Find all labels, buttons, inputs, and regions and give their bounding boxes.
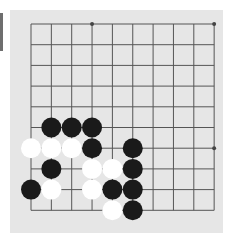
black-stone[interactable] bbox=[123, 159, 143, 179]
black-stone[interactable] bbox=[41, 118, 61, 138]
black-stone[interactable] bbox=[102, 180, 122, 200]
white-stone[interactable] bbox=[41, 180, 61, 200]
go-board[interactable] bbox=[10, 10, 223, 233]
black-stone[interactable] bbox=[82, 138, 102, 158]
white-stone[interactable] bbox=[82, 180, 102, 200]
black-stone[interactable] bbox=[62, 118, 82, 138]
black-stone[interactable] bbox=[123, 180, 143, 200]
white-stone[interactable] bbox=[102, 159, 122, 179]
black-stone[interactable] bbox=[123, 138, 143, 158]
black-stone[interactable] bbox=[123, 200, 143, 220]
star-point bbox=[212, 22, 216, 26]
black-stone[interactable] bbox=[21, 180, 41, 200]
white-stone[interactable] bbox=[41, 138, 61, 158]
white-stone[interactable] bbox=[62, 138, 82, 158]
black-stone[interactable] bbox=[82, 118, 102, 138]
white-stone[interactable] bbox=[21, 138, 41, 158]
star-point bbox=[212, 146, 216, 150]
go-board-grid[interactable] bbox=[10, 10, 223, 233]
white-stone[interactable] bbox=[82, 159, 102, 179]
star-point bbox=[90, 22, 94, 26]
side-scroll-bar[interactable] bbox=[0, 13, 3, 51]
black-stone[interactable] bbox=[41, 159, 61, 179]
white-stone[interactable] bbox=[102, 200, 122, 220]
